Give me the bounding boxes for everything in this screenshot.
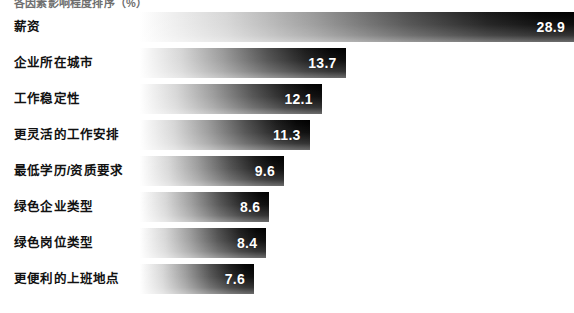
- bar-category-label: 工作稳定性: [14, 81, 80, 117]
- bar-category-label: 更灵活的工作安排: [14, 117, 120, 153]
- chart-title: 各因素影响程度排序（%）: [14, 0, 147, 9]
- bar[interactable]: 11.3: [140, 120, 310, 150]
- bar[interactable]: 7.6: [140, 264, 254, 294]
- bar-category-label: 最低学历/资质要求: [14, 153, 123, 189]
- bar-track: 9.6: [140, 156, 574, 186]
- bar-chart: 各因素影响程度排序（%） 薪资28.9企业所在城市13.7工作稳定性12.1更灵…: [0, 0, 574, 313]
- bar-row: 绿色企业类型8.6: [0, 189, 574, 225]
- bar-track: 8.6: [140, 192, 574, 222]
- bar[interactable]: 28.9: [140, 12, 574, 42]
- bar-category-label: 绿色企业类型: [14, 189, 93, 225]
- bar-row: 薪资28.9: [0, 9, 574, 45]
- bar[interactable]: 13.7: [140, 48, 346, 78]
- bar[interactable]: 8.4: [140, 228, 266, 258]
- bar-value-label: 8.6: [240, 192, 260, 222]
- bar-row: 绿色岗位类型8.4: [0, 225, 574, 261]
- bar-row: 企业所在城市13.7: [0, 45, 574, 81]
- bar-track: 8.4: [140, 228, 574, 258]
- bar-value-label: 12.1: [284, 84, 312, 114]
- bar-category-label: 企业所在城市: [14, 45, 93, 81]
- bar-category-label: 薪资: [14, 9, 40, 45]
- bar[interactable]: 12.1: [140, 84, 322, 114]
- bar-track: 12.1: [140, 84, 574, 114]
- bar-row: 更灵活的工作安排11.3: [0, 117, 574, 153]
- bar-category-label: 绿色岗位类型: [14, 225, 93, 261]
- bar-row: 更便利的上班地点7.6: [0, 261, 574, 297]
- bar-value-label: 13.7: [308, 48, 336, 78]
- bar-rows: 薪资28.9企业所在城市13.7工作稳定性12.1更灵活的工作安排11.3最低学…: [0, 9, 574, 297]
- bar-row: 工作稳定性12.1: [0, 81, 574, 117]
- bar-value-label: 8.4: [237, 228, 257, 258]
- bar-row: 最低学历/资质要求9.6: [0, 153, 574, 189]
- bar-track: 7.6: [140, 264, 574, 294]
- bar-value-label: 11.3: [273, 120, 301, 150]
- bar-category-label: 更便利的上班地点: [14, 261, 120, 297]
- bar[interactable]: 9.6: [140, 156, 284, 186]
- bar-track: 28.9: [140, 12, 574, 42]
- bar-value-label: 9.6: [255, 156, 275, 186]
- bar-value-label: 7.6: [225, 264, 245, 294]
- bar-track: 13.7: [140, 48, 574, 78]
- bar-value-label: 28.9: [537, 12, 565, 42]
- bar[interactable]: 8.6: [140, 192, 269, 222]
- bar-track: 11.3: [140, 120, 574, 150]
- chart-title-strip: 各因素影响程度排序（%）: [0, 0, 574, 9]
